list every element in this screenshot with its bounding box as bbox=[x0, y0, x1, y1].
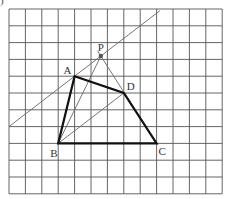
point-label-b: B bbox=[50, 147, 57, 159]
point-label-a: A bbox=[64, 64, 72, 76]
point-label-p: P bbox=[98, 41, 104, 53]
geometry-diagram: ABCDP bbox=[0, 0, 229, 199]
point-label-d: D bbox=[127, 80, 135, 92]
point-P-marker bbox=[99, 54, 103, 58]
line-through-A-parallel-BD bbox=[9, 11, 160, 127]
point-label-c: C bbox=[159, 145, 166, 157]
